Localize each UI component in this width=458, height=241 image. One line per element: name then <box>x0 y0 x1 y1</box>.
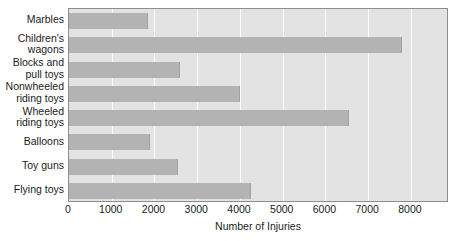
x-axis-tick-3000: 3000 <box>185 203 208 215</box>
x-axis-tick-5000: 5000 <box>270 203 293 215</box>
y-axis-label: Wheeledriding toys <box>0 106 64 129</box>
x-axis-tick-labels: 010002000300040005000600070008000 <box>0 203 458 217</box>
x-axis-tick-1000: 1000 <box>99 203 122 215</box>
bar[interactable] <box>69 62 180 78</box>
bar-lane <box>69 86 448 102</box>
x-axis-title: Number of Injuries <box>68 220 448 232</box>
bar-lane <box>69 110 448 126</box>
x-axis-tick-2000: 2000 <box>142 203 165 215</box>
y-axis-label-line: wagons <box>0 44 64 56</box>
y-axis-category-labels: MarblesChildren'swagonsBlocks andpull to… <box>0 8 64 202</box>
bar-lane <box>69 159 448 175</box>
y-axis-label-line: Marbles <box>0 14 64 26</box>
bar[interactable] <box>69 86 240 102</box>
y-axis-label: Flying toys <box>0 184 64 196</box>
y-axis-label: Blocks andpull toys <box>0 57 64 80</box>
bar-lane <box>69 183 448 199</box>
bar-chart: MarblesChildren'swagonsBlocks andpull to… <box>0 0 458 241</box>
bar[interactable] <box>69 13 148 29</box>
bar[interactable] <box>69 134 150 150</box>
y-axis-label-line: riding toys <box>0 93 64 105</box>
bar-lane <box>69 134 448 150</box>
y-axis-label-line: pull toys <box>0 69 64 81</box>
y-axis-label-line: Balloons <box>0 136 64 148</box>
y-axis-label: Toy guns <box>0 160 64 172</box>
bar-lane <box>69 62 448 78</box>
y-axis-label-line: Blocks and <box>0 57 64 69</box>
bar[interactable] <box>69 110 349 126</box>
bar-lane <box>69 13 448 29</box>
y-axis-label-line: Flying toys <box>0 184 64 196</box>
x-axis-tick-4000: 4000 <box>227 203 250 215</box>
x-axis-tick-0: 0 <box>65 203 71 215</box>
bar[interactable] <box>69 37 402 53</box>
y-axis-label: Nonwheeledriding toys <box>0 81 64 104</box>
y-axis-label: Balloons <box>0 136 64 148</box>
x-axis-tick-7000: 7000 <box>356 203 379 215</box>
y-axis-label-line: riding toys <box>0 117 64 129</box>
y-axis-label-line: Toy guns <box>0 160 64 172</box>
x-axis-tick-6000: 6000 <box>313 203 336 215</box>
y-axis-label: Marbles <box>0 14 64 26</box>
bar[interactable] <box>69 159 178 175</box>
y-axis-label: Children'swagons <box>0 33 64 56</box>
plot-area <box>68 8 448 202</box>
x-axis-tick-8000: 8000 <box>398 203 421 215</box>
bar-lane <box>69 37 448 53</box>
bar[interactable] <box>69 183 251 199</box>
